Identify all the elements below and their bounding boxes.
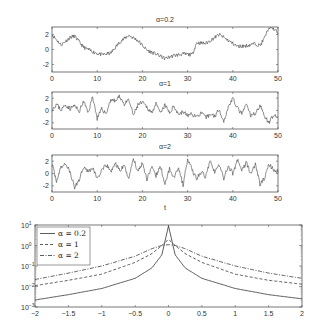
x-tick-label: 10 bbox=[93, 132, 101, 139]
panel-spectrum: −2−1.5−1−0.500.511.5210110010−110−210−3α… bbox=[21, 220, 304, 317]
figure: α=0.20102030405020-2α=10102030405020-2α=… bbox=[0, 0, 321, 333]
panel-alpha-0.2: α=0.20102030405020-2 bbox=[43, 16, 282, 82]
y-tick-label: 2 bbox=[45, 31, 49, 38]
legend-entry: α = 2 bbox=[58, 251, 79, 260]
y-tick-label: 10−1 bbox=[21, 261, 35, 270]
x-tick-label: −1.5 bbox=[61, 310, 75, 317]
x-tick-label: 0.5 bbox=[197, 310, 207, 317]
y-tick-label: 101 bbox=[21, 220, 32, 229]
y-tick-label: 2 bbox=[45, 158, 49, 165]
x-tick-label: 20 bbox=[139, 75, 147, 82]
x-tick-label: 1 bbox=[233, 310, 237, 317]
x-tick-label: 30 bbox=[184, 75, 192, 82]
x-axis-label: t bbox=[164, 204, 166, 211]
x-tick-label: 20 bbox=[139, 195, 147, 202]
x-tick-label: 30 bbox=[184, 132, 192, 139]
x-tick-label: 50 bbox=[274, 195, 282, 202]
x-tick-label: 50 bbox=[274, 75, 282, 82]
x-tick-label: 10 bbox=[93, 195, 101, 202]
legend: α = 0.2α = 1α = 2 bbox=[37, 227, 90, 265]
y-tick-label: 0 bbox=[45, 46, 49, 53]
y-tick-label: 2 bbox=[45, 95, 49, 102]
y-tick-label: 100 bbox=[21, 241, 32, 250]
x-tick-label: 30 bbox=[184, 195, 192, 202]
panel-title: α=0.2 bbox=[156, 16, 174, 23]
panel-title: α=2 bbox=[159, 143, 171, 150]
x-tick-label: 2 bbox=[300, 310, 304, 317]
x-tick-label: 0 bbox=[50, 132, 54, 139]
panel-alpha-1: α=10102030405020-2 bbox=[43, 80, 282, 139]
panel-alpha-2: α=20102030405020-2t bbox=[43, 143, 282, 211]
x-tick-label: 40 bbox=[229, 75, 237, 82]
legend-entry: α = 1 bbox=[58, 240, 79, 249]
x-tick-label: 50 bbox=[274, 132, 282, 139]
x-tick-label: 0 bbox=[167, 310, 171, 317]
y-tick-label: -2 bbox=[43, 119, 49, 126]
y-tick-label: 10−2 bbox=[21, 282, 35, 291]
x-tick-label: −1 bbox=[98, 310, 106, 317]
x-tick-label: 10 bbox=[93, 75, 101, 82]
series-line bbox=[52, 28, 278, 60]
panel-title: α=1 bbox=[159, 80, 171, 87]
x-tick-label: 0 bbox=[50, 195, 54, 202]
x-tick-label: 1.5 bbox=[264, 310, 274, 317]
x-tick-label: −0.5 bbox=[128, 310, 142, 317]
x-tick-label: 40 bbox=[229, 195, 237, 202]
y-tick-label: 0 bbox=[45, 170, 49, 177]
axes-box bbox=[52, 155, 278, 192]
axes-box bbox=[52, 27, 278, 72]
y-tick-label: 0 bbox=[45, 107, 49, 114]
y-tick-label: -2 bbox=[43, 182, 49, 189]
y-tick-label: -2 bbox=[43, 61, 49, 68]
x-tick-label: 0 bbox=[50, 75, 54, 82]
axes-box bbox=[52, 92, 278, 129]
x-tick-label: 40 bbox=[229, 132, 237, 139]
x-tick-label: −2 bbox=[31, 310, 39, 317]
series-line bbox=[52, 159, 278, 190]
legend-entry: α = 0.2 bbox=[58, 229, 86, 238]
series-line bbox=[52, 95, 278, 124]
x-tick-label: 20 bbox=[139, 132, 147, 139]
